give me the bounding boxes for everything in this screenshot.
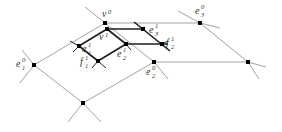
svg-text:0: 0	[108, 8, 112, 15]
svg-text:e: e	[149, 24, 154, 35]
svg-text:1: 1	[85, 54, 88, 61]
svg-text:1: 1	[22, 64, 25, 71]
svg-text:1: 1	[123, 46, 126, 53]
vertex-e31	[141, 27, 145, 31]
label-e31: e 1 3	[149, 22, 159, 37]
edge-e10-bottom	[34, 65, 83, 103]
label-e21: e 1 2	[117, 46, 127, 61]
svg-text:3: 3	[200, 11, 205, 18]
svg-text:v: v	[102, 8, 107, 19]
svg-text:v: v	[99, 31, 104, 42]
svg-text:2: 2	[152, 72, 156, 79]
stub-e20	[154, 62, 168, 79]
vertex-f21	[160, 42, 164, 46]
svg-text:e: e	[195, 5, 200, 16]
svg-text:f: f	[166, 37, 170, 48]
svg-text:0: 0	[152, 64, 156, 71]
svg-text:3: 3	[154, 30, 159, 37]
svg-text:f: f	[80, 56, 84, 67]
svg-text:e: e	[82, 43, 87, 54]
mesh-refinement-diagram: v 0 v 1 e 1 1 f 1 1 e 1 2 e 1 3 f 1	[0, 0, 282, 132]
label-v0: v 0	[102, 8, 112, 19]
edge-v1-e21	[107, 29, 126, 44]
vertices	[32, 21, 250, 105]
label-f11: f 1 1	[80, 54, 88, 69]
svg-text:2: 2	[123, 54, 127, 61]
labels: v 0 v 1 e 1 1 f 1 1 e 1 2 e 1 3 f 1	[16, 3, 205, 79]
svg-text:0: 0	[22, 56, 26, 63]
svg-text:1: 1	[88, 41, 91, 48]
svg-text:1: 1	[85, 62, 88, 69]
svg-text:0: 0	[201, 3, 205, 10]
edge-f11-e21	[98, 44, 126, 61]
edge-bottom-e20	[83, 62, 154, 103]
svg-text:e: e	[16, 58, 21, 69]
coarse-edges	[20, 7, 266, 122]
vertex-bottom	[81, 101, 85, 105]
svg-text:1: 1	[155, 22, 158, 29]
svg-text:1: 1	[88, 49, 91, 56]
svg-text:2: 2	[171, 43, 175, 50]
vertex-v0	[103, 21, 107, 25]
stub-bottom-right	[83, 103, 101, 122]
svg-text:1: 1	[171, 35, 174, 42]
vertex-e11	[77, 44, 81, 48]
label-e10: e 0 1	[16, 56, 26, 71]
vertex-e30	[198, 21, 202, 25]
label-e30: e 0 3	[195, 3, 205, 18]
label-f21: f 1 2	[166, 35, 175, 50]
svg-text:1: 1	[105, 31, 108, 38]
svg-text:e: e	[146, 66, 151, 77]
edge-e30-right	[200, 23, 248, 62]
vertex-right	[246, 60, 250, 64]
label-e20: e 0 2	[146, 64, 156, 79]
vertex-f11	[96, 59, 100, 63]
vertex-e10	[32, 63, 36, 67]
stub-bottom-left	[68, 103, 83, 122]
svg-text:e: e	[117, 48, 122, 59]
label-v1: v 1	[99, 31, 108, 42]
